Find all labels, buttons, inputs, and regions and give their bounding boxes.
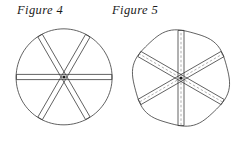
figure-5-center-dot bbox=[179, 76, 182, 79]
figure-4-strip-2-cap bbox=[86, 34, 91, 37]
figure-4-diagram bbox=[16, 29, 112, 125]
figure-4-center-dot bbox=[62, 75, 65, 78]
figure-5-strip-1-cap bbox=[138, 51, 141, 56]
figure-5-strip-2-edge bbox=[138, 51, 221, 99]
figure-4-strip-2-edge bbox=[42, 37, 90, 120]
figure-4-strip-1-cap bbox=[38, 34, 43, 37]
figure-5-strip-1-edge bbox=[141, 51, 224, 99]
figure-4-strip-2-cap bbox=[38, 117, 43, 120]
figure-4-strip-1-edge bbox=[42, 34, 90, 117]
figure-4-strip-1-cap bbox=[86, 117, 91, 120]
figure-page: Figure 4 Figure 5 bbox=[0, 0, 242, 141]
figure-5-strip-2-cap bbox=[138, 99, 141, 104]
figure-5-strip-2-cap bbox=[221, 51, 224, 56]
figure-4-strip-1-edge bbox=[38, 37, 86, 120]
figure-4-strip-2-edge bbox=[38, 34, 86, 117]
figure-5-strip-1-edge bbox=[138, 57, 221, 105]
figure-5-strip-2-edge bbox=[141, 57, 224, 105]
figure-5-strip-1-cap bbox=[221, 99, 224, 104]
figure-5-diagram bbox=[132, 30, 229, 126]
figures-drawing bbox=[0, 0, 242, 141]
